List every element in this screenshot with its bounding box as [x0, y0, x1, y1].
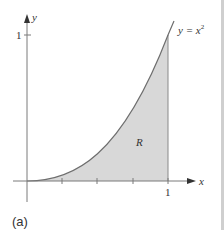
y-axis-arrow-icon	[24, 14, 30, 23]
x-axis-arrow-icon	[187, 178, 196, 184]
figure-panel-a: y 1 x 1 R y = x2 (a)	[0, 0, 224, 230]
curve-label-exponent: 2	[201, 23, 205, 31]
x-axis-label: x	[198, 175, 204, 187]
x-tick-label: 1	[165, 186, 171, 198]
panel-label: (a)	[12, 214, 28, 229]
curve-label: y = x2	[177, 23, 205, 36]
page-edge-strip	[221, 0, 224, 230]
curve-label-base: y = x	[177, 24, 201, 36]
chart-svg: y 1 x 1 R y = x2	[0, 0, 224, 230]
shaded-region-r	[27, 35, 168, 181]
y-tick-label: 1	[16, 29, 22, 41]
y-axis-label: y	[31, 11, 37, 23]
region-label: R	[135, 136, 143, 148]
